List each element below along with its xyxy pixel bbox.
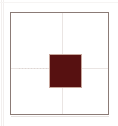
data-square-marker (49, 54, 82, 88)
plot-panel (10, 12, 109, 115)
plot-area (11, 13, 108, 114)
figure-root (0, 0, 118, 126)
horizontal-gridline-dashed-segment (19, 68, 51, 69)
panel-bottom-shadow (11, 116, 109, 117)
left-edge-artifact-line-2 (3, 0, 4, 126)
left-edge-artifact-line-1 (1, 0, 2, 126)
top-edge-artifact-line (0, 2, 118, 3)
